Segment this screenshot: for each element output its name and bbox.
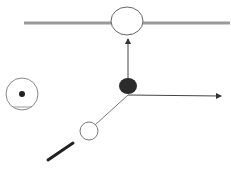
target-symbol <box>6 78 38 110</box>
top-circle <box>111 7 143 35</box>
target-center-dot <box>19 91 25 97</box>
thick-bar <box>48 143 73 160</box>
truncated-caption <box>0 170 231 175</box>
horizontal-arrow <box>128 95 221 96</box>
diagram-canvas <box>0 0 231 175</box>
small-circle <box>80 122 98 140</box>
filled-node <box>119 78 137 94</box>
diagonal-link <box>95 95 128 125</box>
